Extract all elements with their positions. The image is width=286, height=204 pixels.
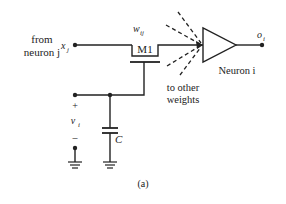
arrowhead-icon: [196, 41, 203, 49]
voltage-minus: –: [72, 132, 79, 143]
other-weights-dashes: [166, 12, 201, 75]
source-label-line1: from: [31, 33, 53, 45]
ground-icon: [68, 162, 82, 168]
output-sub: i: [263, 35, 265, 43]
ground-icon: [103, 162, 117, 168]
input-sub: j: [66, 46, 69, 54]
input-node: [73, 43, 77, 47]
weight-var: w: [133, 23, 140, 34]
caption: (a): [137, 178, 148, 190]
output-node: [260, 43, 264, 47]
voltage-plus: +: [72, 100, 78, 111]
neuron-label: Neuron i: [218, 65, 255, 76]
output-var: o: [257, 29, 262, 40]
other-weights-line1: to other: [167, 82, 200, 93]
weight-sub: ij: [140, 29, 144, 37]
other-weights-line2: weights: [167, 94, 200, 105]
transistor-label: M1: [137, 43, 152, 55]
gate-wire: [75, 62, 144, 95]
vi-node-bottom: [73, 146, 77, 150]
voltage-var: v: [71, 115, 76, 126]
source-label-line2: neuron j: [24, 46, 60, 58]
junction-node: [108, 93, 112, 97]
neuron-triangle: [203, 28, 236, 62]
capacitor-label: C: [115, 133, 123, 145]
input-var: x: [60, 40, 66, 51]
neuron-circuit-diagram: from neuron j x j w ij M1 to other weigh…: [0, 0, 286, 204]
voltage-sub: i: [78, 121, 80, 129]
vi-node-top: [73, 93, 77, 97]
